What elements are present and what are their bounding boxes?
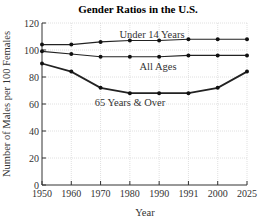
x-tick-label: 2000: [208, 188, 228, 199]
data-point: [99, 86, 103, 90]
data-point: [99, 40, 103, 44]
x-tick-label: 2025: [237, 188, 257, 199]
data-point: [69, 43, 73, 47]
series-label-65-over: 65 Years & Over: [95, 97, 166, 108]
y-tick-label: 120: [24, 18, 39, 29]
series-label-all-ages: All Ages: [139, 61, 176, 72]
x-tick-label: 1980: [120, 188, 140, 199]
data-point: [69, 52, 73, 56]
y-axis-label: Number of Males per 100 Females: [1, 31, 12, 177]
y-tick-label: 20: [29, 153, 39, 164]
x-tick-label: 1990: [149, 188, 169, 199]
y-tick-label: 60: [29, 99, 39, 110]
data-point: [99, 55, 103, 59]
data-point: [128, 91, 132, 95]
x-axis-label: Year: [135, 207, 155, 218]
y-tick-label: 0: [34, 180, 39, 191]
x-tick-label: 1970: [91, 188, 111, 199]
y-tick-label: 100: [24, 45, 39, 56]
data-point: [157, 55, 161, 59]
data-point: [216, 86, 220, 90]
data-point: [245, 37, 249, 41]
series-label-under-14: Under 14 Years: [119, 29, 184, 40]
x-tick-label: 1960: [61, 188, 81, 199]
x-tick-label: 1991: [178, 188, 198, 199]
data-point: [40, 49, 44, 53]
data-point: [216, 37, 220, 41]
data-point: [216, 53, 220, 57]
data-point: [186, 91, 190, 95]
y-tick-label: 80: [29, 72, 39, 83]
chart-title: Gender Ratios in the U.S.: [78, 3, 198, 15]
data-point: [128, 55, 132, 59]
data-point: [245, 53, 249, 57]
data-point: [69, 70, 73, 74]
data-point: [157, 91, 161, 95]
data-point: [186, 37, 190, 41]
data-point: [186, 53, 190, 57]
data-point: [245, 70, 249, 74]
line-chart: Gender Ratios in the U.S. 19501960197019…: [0, 0, 265, 222]
y-tick-label: 40: [29, 126, 39, 137]
data-point: [40, 62, 44, 66]
x-axis-ticks: 19501960197019801990199120002025: [32, 181, 257, 199]
data-point: [40, 43, 44, 47]
